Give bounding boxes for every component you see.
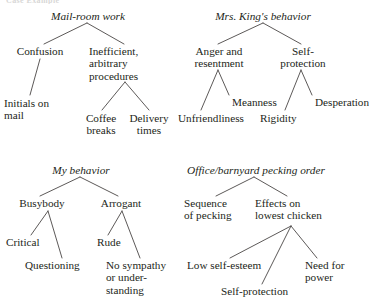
node-critical: Critical (6, 236, 40, 248)
edge-king-to-selfprotection (263, 23, 301, 44)
tree-heading-mail-room-work: Mail-room work (51, 10, 125, 23)
node-questioning: Questioning (25, 259, 80, 271)
edge-arrogant-to-rude (108, 211, 122, 235)
node-rude: Rude (97, 236, 121, 248)
node-confusion: Confusion (17, 45, 64, 57)
node-desperation: Desperation (315, 96, 369, 108)
edge-effects-to-selfprotection2 (262, 226, 291, 284)
node-meanness: Meanness (232, 96, 277, 108)
edge-effects-to-needforpower (291, 226, 317, 258)
edge-anger-to-unfriendliness (201, 70, 218, 110)
edge-pecking-to-effects (254, 177, 287, 196)
node-need-for-power: Need for power (305, 259, 344, 284)
node-busybody: Busybody (19, 197, 64, 209)
node-sequence-of-pecking: Sequence of pecking (184, 197, 232, 222)
edge-king-to-anger (218, 23, 263, 44)
tree-heading-my-behavior: My behavior (52, 164, 109, 177)
node-coffee-breaks: Coffee breaks (86, 112, 116, 137)
edge-effects-to-lowselfesteem (230, 226, 291, 258)
node-anger-and-resentment: Anger and resentment (194, 45, 243, 70)
edge-confusion-to-initials (30, 59, 40, 95)
tree-heading-office-barnyard-pecking-order: Office/barnyard pecking order (187, 164, 325, 177)
edge-inefficient-to-coffee (102, 82, 125, 110)
node-low-self-esteem: Low self-esteem (187, 259, 261, 271)
node-initials-on-mail: Initials on mail (4, 97, 49, 122)
node-unfriendliness: Unfriendliness (178, 112, 244, 124)
edge-inefficient-to-delivery (125, 82, 149, 110)
edge-mailroom-to-inefficient (87, 23, 124, 44)
tree-heading-mrs-kings-behavior: Mrs. King's behavior (215, 10, 311, 23)
node-no-sympathy-or-understanding: No sympathy or under- standing (106, 259, 166, 296)
node-delivery-times: Delivery times (129, 112, 168, 137)
node-arrogant: Arrogant (101, 197, 141, 209)
node-self-protection: Self- protection (280, 45, 325, 70)
edge-arrogant-to-nosympathy (122, 211, 140, 258)
edge-busybody-to-critical (31, 211, 48, 235)
edge-mybehavior-to-arrogant (80, 177, 118, 196)
edge-anger-to-meanness (218, 70, 229, 95)
edge-mailroom-to-confusion (44, 23, 87, 44)
edge-mybehavior-to-busybody (40, 177, 80, 196)
edge-busybody-to-questioning (48, 211, 62, 258)
node-inefficient-arbitrary-procedures: Inefficient, arbitrary procedures (89, 45, 138, 82)
edge-pecking-to-sequence (216, 177, 254, 196)
clipped-figure-caption: Case Example (6, 0, 126, 4)
edge-selfprot-to-rigidity (285, 70, 301, 110)
node-rigidity: Rigidity (260, 112, 297, 124)
edge-selfprot-to-desperation (301, 70, 312, 95)
node-self-protection-lowest-chicken: Self-protection (221, 285, 288, 297)
node-effects-on-lowest-chicken: Effects on lowest chicken (255, 197, 322, 222)
